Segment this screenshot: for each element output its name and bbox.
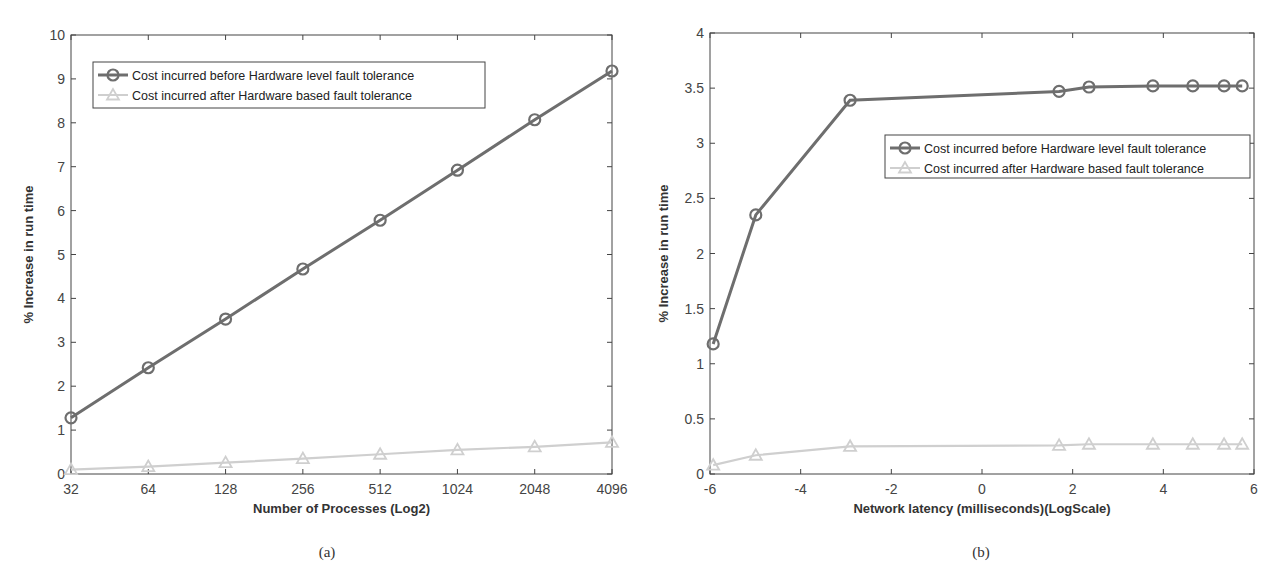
line-chart-a: 0123456789103264128256512102420484096Num… (0, 0, 641, 582)
y-tick-label: 0 (57, 466, 65, 482)
x-tick-label: 4 (1159, 481, 1167, 497)
x-tick-label: 64 (140, 481, 156, 497)
x-tick-label: 4096 (596, 481, 627, 497)
y-axis-title: % Increase in run time (21, 186, 36, 324)
series-line (707, 438, 1248, 469)
legend-label: Cost incurred before Hardware level faul… (132, 69, 414, 83)
y-tick-label: 0 (696, 466, 704, 482)
series-line (708, 80, 1248, 349)
legend-label: Cost incurred before Hardware level faul… (924, 142, 1206, 156)
y-tick-label: 0.5 (685, 411, 705, 427)
chart-panel-b: 00.511.522.533.54-6-4-20246Network laten… (641, 0, 1282, 582)
x-tick-label: 2 (1069, 481, 1077, 497)
y-tick-label: 2 (57, 378, 65, 394)
x-axis-title: Number of Processes (Log2) (253, 501, 430, 516)
y-tick-label: 4 (696, 25, 704, 41)
x-tick-label: 256 (291, 481, 315, 497)
y-tick-label: 3 (57, 334, 65, 350)
y-tick-label: 8 (57, 115, 65, 131)
y-tick-label: 4 (57, 290, 65, 306)
x-tick-label: 512 (368, 481, 392, 497)
plot-area (710, 33, 1254, 474)
data-line (713, 86, 1242, 344)
x-axis-title: Network latency (milliseconds)(LogScale) (853, 501, 1110, 516)
y-tick-label: 7 (57, 159, 65, 175)
y-tick-label: 3 (696, 135, 704, 151)
y-tick-label: 1 (696, 356, 704, 372)
x-tick-label: 2048 (519, 481, 550, 497)
legend-label: Cost incurred after Hardware based fault… (132, 89, 412, 103)
x-tick-label: 128 (214, 481, 238, 497)
y-tick-label: 10 (49, 27, 65, 43)
x-tick-label: 6 (1250, 481, 1258, 497)
series-line (66, 65, 618, 423)
y-tick-label: 1.5 (685, 301, 705, 317)
y-tick-label: 3.5 (685, 80, 705, 96)
data-line (713, 444, 1242, 465)
series-line (65, 436, 618, 474)
x-tick-label: -2 (885, 481, 898, 497)
x-tick-label: -4 (794, 481, 807, 497)
y-tick-label: 9 (57, 71, 65, 87)
y-tick-label: 2.5 (685, 190, 705, 206)
line-chart-b: 00.511.522.533.54-6-4-20246Network laten… (641, 0, 1282, 582)
chart-panel-a: 0123456789103264128256512102420484096Num… (0, 0, 641, 582)
legend-label: Cost incurred after Hardware based fault… (924, 162, 1204, 176)
legend: Cost incurred before Hardware level faul… (93, 62, 485, 108)
y-tick-label: 5 (57, 247, 65, 263)
x-tick-label: -6 (704, 481, 717, 497)
legend: Cost incurred before Hardware level faul… (885, 135, 1250, 178)
y-axis-title: % Increase in run time (656, 185, 671, 323)
y-tick-label: 6 (57, 203, 65, 219)
y-tick-label: 1 (57, 422, 65, 438)
y-tick-label: 2 (696, 246, 704, 262)
x-tick-label: 32 (63, 481, 79, 497)
x-tick-label: 0 (978, 481, 986, 497)
caption-a: (a) (319, 544, 336, 561)
x-tick-label: 1024 (442, 481, 473, 497)
caption-b: (b) (972, 544, 990, 561)
